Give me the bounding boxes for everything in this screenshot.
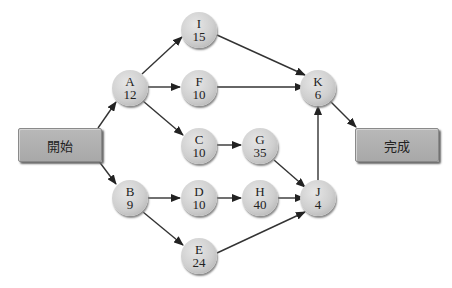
end-label: 完成 [384, 136, 410, 155]
node-duration: 10 [193, 88, 206, 101]
node-k: K 6 [300, 70, 336, 106]
node-duration: 10 [193, 146, 206, 159]
node-d: D 10 [181, 180, 217, 216]
edge-e-j [217, 212, 305, 253]
node-f: F 10 [181, 70, 217, 106]
end-box: 完成 [355, 128, 439, 162]
edge-g-j [274, 160, 305, 187]
node-duration: 9 [127, 198, 134, 211]
activity-network-diagram: 開始 完成 I 15 A 12 F 10 K 6 C 10 G 35 B 9 D… [0, 0, 452, 288]
node-duration: 40 [254, 198, 267, 211]
edge-a-c [143, 101, 183, 135]
node-duration: 12 [124, 88, 137, 101]
node-duration: 4 [315, 198, 322, 211]
node-duration: 35 [254, 146, 267, 159]
edge-i-k [217, 35, 305, 75]
node-i: I 15 [181, 12, 217, 48]
node-c: C 10 [181, 128, 217, 164]
node-duration: 15 [193, 30, 206, 43]
edge-k-end [330, 101, 356, 127]
start-box: 開始 [18, 128, 102, 162]
edge-b-e [143, 212, 183, 245]
node-e: E 24 [181, 238, 217, 274]
node-duration: 6 [315, 88, 322, 101]
start-label: 開始 [47, 136, 73, 155]
node-duration: 10 [193, 198, 206, 211]
edge-start-b [98, 160, 116, 184]
edge-start-a [98, 102, 116, 128]
node-duration: 24 [193, 256, 206, 269]
node-h: H 40 [242, 180, 278, 216]
node-g: G 35 [242, 128, 278, 164]
node-a: A 12 [112, 70, 148, 106]
edge-a-i [142, 37, 182, 74]
node-j: J 4 [300, 180, 336, 216]
node-b: B 9 [112, 180, 148, 216]
